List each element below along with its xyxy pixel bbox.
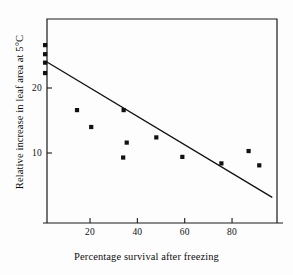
y-axis-title: Relative increase in leaf area at 5°C bbox=[14, 2, 28, 222]
scatter-plot-figure: 204060801020 Percentage survival after f… bbox=[0, 0, 293, 275]
data-point-marker bbox=[75, 108, 79, 112]
data-point-marker bbox=[247, 149, 251, 153]
axes-frame bbox=[43, 19, 283, 223]
data-point-marker bbox=[89, 125, 93, 129]
data-point-marker bbox=[43, 43, 47, 47]
data-point-marker bbox=[125, 141, 129, 145]
x-tick-label: 60 bbox=[180, 227, 190, 237]
x-axis-title: Percentage survival after freezing bbox=[0, 251, 293, 262]
data-point-marker bbox=[219, 161, 223, 165]
data-point-marker bbox=[121, 155, 125, 159]
x-tick-label: 20 bbox=[85, 227, 95, 237]
data-points bbox=[43, 43, 261, 167]
data-point-marker bbox=[43, 61, 47, 65]
data-point-marker bbox=[257, 163, 261, 167]
data-point-marker bbox=[43, 71, 47, 75]
data-point-marker bbox=[180, 155, 184, 159]
y-axis-ticks bbox=[47, 88, 52, 153]
data-point-marker bbox=[122, 108, 126, 112]
x-tick-label: 80 bbox=[227, 227, 237, 237]
data-point-marker bbox=[43, 52, 47, 56]
regression-line bbox=[47, 62, 272, 197]
x-tick-label: 40 bbox=[132, 227, 142, 237]
axes-spines bbox=[47, 19, 277, 223]
data-point-marker bbox=[154, 135, 158, 139]
plot-canvas bbox=[0, 0, 293, 275]
x-axis-ticks bbox=[90, 218, 232, 223]
